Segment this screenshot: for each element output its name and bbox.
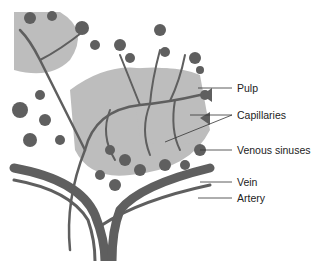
label-capillaries: Capillaries [237,109,286,121]
label-artery: Artery [237,192,265,204]
label-vein: Vein [237,176,257,188]
diagram-illustration [0,0,325,261]
spleen-diagram: Pulp Capillaries Venous sinuses Vein Art… [0,0,325,261]
label-venous-sinuses: Venous sinuses [237,144,311,156]
label-pulp: Pulp [237,82,258,94]
